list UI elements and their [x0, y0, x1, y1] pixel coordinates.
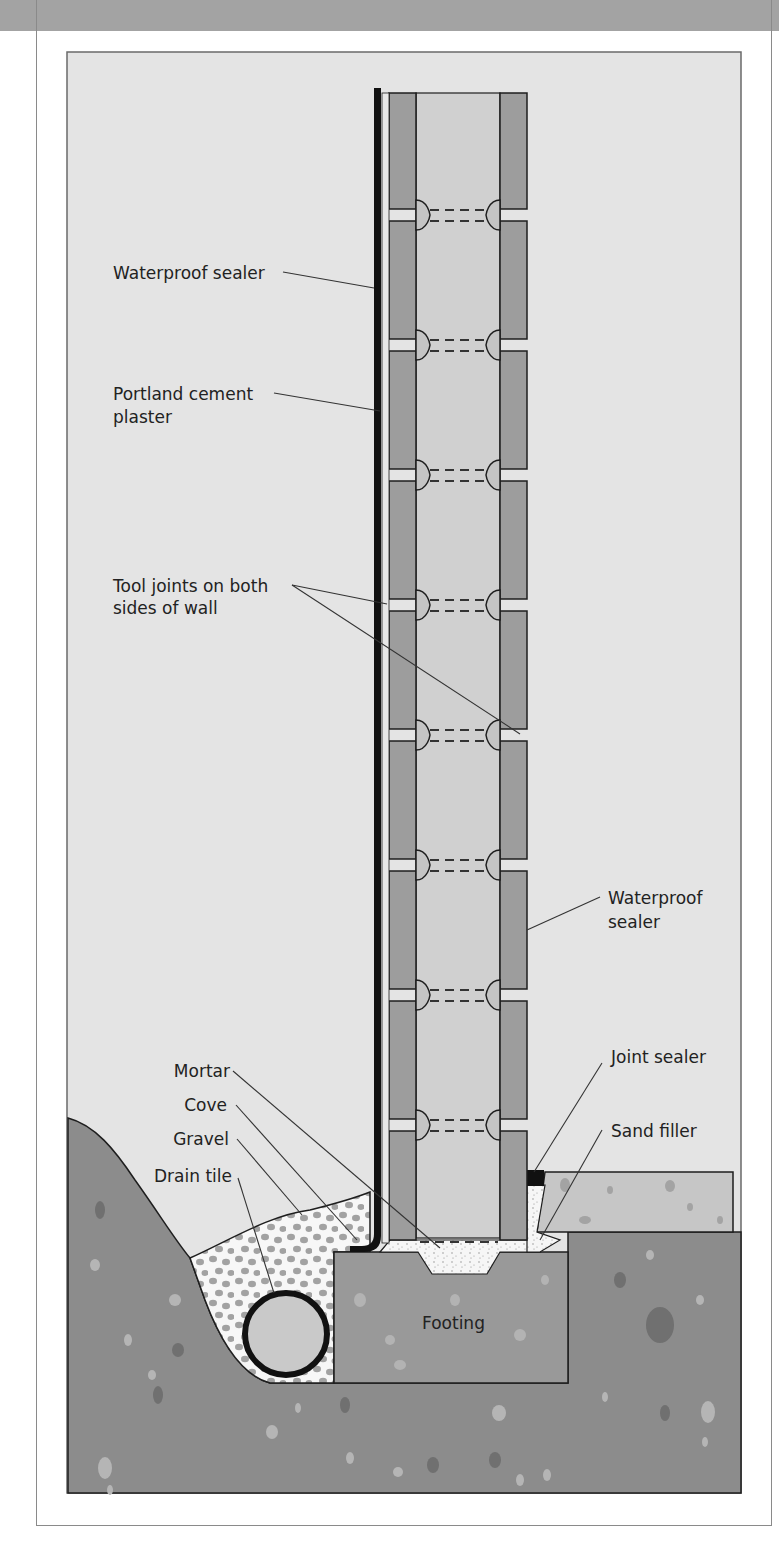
- label-waterproof-sealer-exterior: Waterproof sealer: [113, 263, 265, 283]
- label-portland-plaster: plaster: [113, 407, 172, 427]
- label-footing: Footing: [422, 1313, 485, 1333]
- wall-section-diagram: Waterproof sealer Portland cement plaste…: [0, 0, 779, 1554]
- label-joint-sealer: Joint sealer: [610, 1047, 706, 1067]
- label-sand-filler: Sand filler: [611, 1121, 697, 1141]
- label-tool-joints-2: sides of wall: [113, 598, 218, 618]
- label-waterproof-sealer-interior-2: sealer: [608, 912, 660, 932]
- drain-tile-pipe: [245, 1293, 327, 1375]
- label-tool-joints-1: Tool joints on both: [112, 576, 268, 596]
- left-block-shell: [389, 93, 416, 1240]
- right-block-shell: [500, 93, 527, 1240]
- label-mortar: Mortar: [174, 1061, 230, 1081]
- label-cove: Cove: [184, 1095, 227, 1115]
- joint-sealer: [527, 1170, 544, 1186]
- label-gravel: Gravel: [173, 1129, 229, 1149]
- block-core: [416, 93, 500, 1238]
- portland-cement-plaster: [382, 93, 389, 1243]
- label-drain-tile: Drain tile: [154, 1166, 232, 1186]
- label-portland-cement: Portland cement: [113, 384, 253, 404]
- label-waterproof-sealer-interior-1: Waterproof: [608, 888, 703, 908]
